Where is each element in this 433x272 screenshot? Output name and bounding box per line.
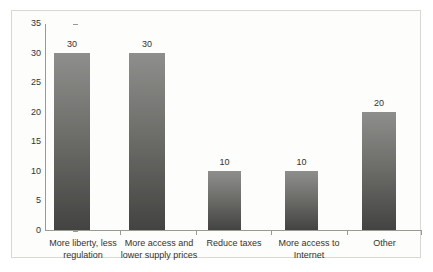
bar-value-1: 30 <box>129 39 165 50</box>
x-tick-5 <box>421 231 422 235</box>
y-axis-line <box>45 24 46 231</box>
bar-value-2: 10 <box>208 157 241 168</box>
bar-value-0: 30 <box>54 39 90 50</box>
bar-reduce-taxes <box>208 171 241 230</box>
category-label-2: Reduce taxes <box>196 237 272 249</box>
y-tick-label-15: 15 <box>31 136 41 147</box>
y-tick-label-0: 0 <box>36 225 41 236</box>
chart-frame: 0 5 10 15 20 25 <box>11 10 421 258</box>
x-tick-1 <box>120 231 121 235</box>
category-label-1: More access and lower supply prices <box>120 237 198 261</box>
x-tick-2 <box>196 231 197 235</box>
bar-value-4: 20 <box>362 98 396 109</box>
bar-chart: 0 5 10 15 20 25 <box>0 0 433 272</box>
y-tick-label-30: 30 <box>31 48 41 59</box>
y-tick-label-5: 5 <box>36 195 41 206</box>
category-label-0: More liberty, less regulation <box>45 237 121 261</box>
plot-area: 0 5 10 15 20 25 <box>12 11 420 257</box>
y-tick-label-35: 35 <box>31 18 41 29</box>
x-tick-3 <box>271 231 272 235</box>
x-tick-4 <box>347 231 348 235</box>
category-label-4: Other <box>347 237 422 249</box>
y-tick-label-10: 10 <box>31 166 41 177</box>
y-tick-label-20: 20 <box>31 107 41 118</box>
bar-more-access-to-internet <box>285 171 318 230</box>
bar-more-liberty-less-regulation <box>54 53 90 230</box>
category-label-3: More access to Internet <box>271 237 347 261</box>
y-tick-label-25: 25 <box>31 77 41 88</box>
bar-other <box>362 112 396 230</box>
bar-more-access-and-lower-supply-prices <box>129 53 165 230</box>
x-axis-line <box>45 230 422 231</box>
bar-value-3: 10 <box>285 157 318 168</box>
